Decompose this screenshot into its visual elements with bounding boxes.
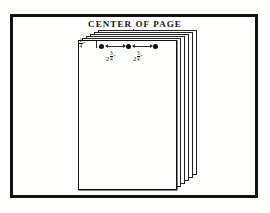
span-one-unit: " xyxy=(113,54,115,60)
dimension-arrow-1-right xyxy=(123,44,126,48)
staple-dot-2 xyxy=(126,44,131,49)
figure-root: CENTER OF PAGE 1 4 " 2 3 4 " 2 xyxy=(0,0,270,213)
left-margin-tick xyxy=(96,41,97,48)
paper-stack xyxy=(0,0,270,213)
dimension-arrow-1-left xyxy=(105,44,108,48)
label-span-one: 2 3 4 " xyxy=(106,51,116,62)
span-two-unit: " xyxy=(140,54,142,60)
label-span-two: 2 3 4 " xyxy=(133,51,143,62)
left-margin-unit: " xyxy=(83,41,85,47)
staple-dot-3 xyxy=(153,44,158,49)
label-left-margin: 1 4 " xyxy=(79,38,85,49)
sheet-front-1 xyxy=(78,40,177,190)
dimension-arrow-2-right xyxy=(150,44,153,48)
staple-dot-1 xyxy=(99,44,104,49)
dimension-arrow-2-left xyxy=(132,44,135,48)
